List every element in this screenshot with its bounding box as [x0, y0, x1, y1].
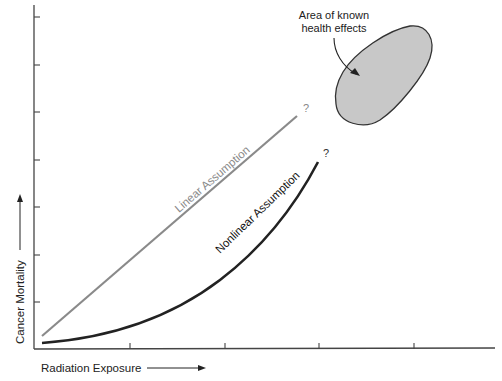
chart-svg: Area of knownhealth effects?Linear Assum… [0, 0, 502, 381]
x-axis-label: Radiation Exposure [41, 362, 141, 374]
nonlinear-question-mark: ? [323, 147, 329, 159]
y-axis-label: Cancer Mortality [14, 260, 26, 344]
known-effects-region [335, 26, 432, 125]
known-effects-blob [335, 26, 432, 125]
linear-series-label: Linear Assumption [172, 144, 251, 215]
linear-question-mark: ? [303, 102, 309, 114]
series-line-linear [42, 116, 297, 336]
x-axis-line [34, 348, 495, 349]
x-axis-arrow-head [198, 365, 206, 371]
y-axis-arrow-head [17, 194, 23, 202]
nonlinear-series-label: Nonlinear Assumption [213, 169, 302, 255]
chart-container: Area of knownhealth effects?Linear Assum… [0, 0, 502, 381]
region-label-line1: Area of known [299, 9, 369, 21]
series-group [42, 116, 318, 343]
labels-group: Area of knownhealth effects?Linear Assum… [14, 9, 369, 374]
region-label-line2: health effects [301, 22, 367, 34]
